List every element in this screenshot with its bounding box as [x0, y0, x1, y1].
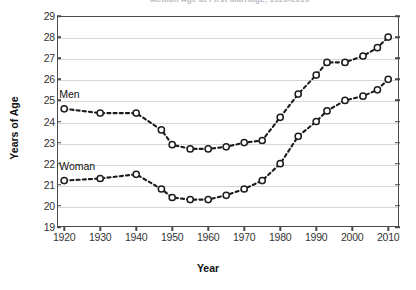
- y-tick-mark: [395, 57, 400, 59]
- y-tick-mark: [395, 163, 400, 165]
- y-tick-label: 22: [29, 158, 55, 170]
- y-tick-mark: [57, 100, 61, 102]
- y-tick-mark: [57, 205, 61, 207]
- data-point-men: [241, 140, 247, 146]
- data-point-woman: [277, 161, 283, 167]
- y-tick-label: 23: [29, 137, 55, 149]
- data-point-woman: [241, 186, 247, 192]
- data-point-men: [295, 91, 301, 97]
- x-tick-mark: [171, 227, 172, 231]
- chart-title-text: Median Age at First Marriage, 1920-2010: [150, 0, 416, 4]
- y-tick-mark: [395, 121, 400, 123]
- data-point-woman: [223, 192, 229, 198]
- y-tick-mark: [395, 184, 400, 186]
- x-tick-label: 1980: [269, 231, 292, 243]
- y-tick-mark: [57, 226, 61, 228]
- data-point-woman: [259, 178, 265, 184]
- y-tick-mark: [57, 121, 61, 123]
- data-point-men: [259, 137, 265, 143]
- y-tick-mark: [57, 142, 61, 144]
- series-line-men: [64, 37, 388, 149]
- data-point-woman: [374, 87, 380, 93]
- data-point-men: [324, 59, 330, 65]
- x-tick-label: 1930: [89, 231, 112, 243]
- data-point-woman: [97, 175, 103, 181]
- data-point-men: [61, 106, 67, 112]
- x-tick-label: 2010: [377, 231, 400, 243]
- data-point-men: [133, 110, 139, 116]
- x-tick-label: 1950: [161, 231, 184, 243]
- data-point-woman: [295, 133, 301, 139]
- y-tick-label: 24: [29, 116, 55, 128]
- data-point-woman: [133, 171, 139, 177]
- x-tick-label: 1960: [197, 231, 220, 243]
- y-tick-mark: [57, 184, 61, 186]
- x-tick-label: 1940: [125, 231, 148, 243]
- data-point-woman: [158, 186, 164, 192]
- y-tick-mark: [395, 36, 400, 38]
- data-point-men: [223, 144, 229, 150]
- y-tick-label: 21: [29, 179, 55, 191]
- data-point-men: [385, 34, 391, 40]
- data-point-woman: [342, 97, 348, 103]
- y-tick-mark: [57, 79, 61, 81]
- data-point-woman: [187, 197, 193, 203]
- data-point-men: [187, 146, 193, 152]
- x-tick-label: 1920: [53, 231, 76, 243]
- x-tick-mark: [63, 227, 64, 231]
- y-tick-label: 19: [29, 221, 55, 233]
- y-tick-label: 28: [29, 31, 55, 43]
- chart-title-cropped: Median Age at First Marriage, 1920-2010: [150, 0, 416, 7]
- x-tick-mark: [351, 227, 352, 231]
- y-tick-mark: [395, 142, 400, 144]
- series-layer: [57, 16, 399, 227]
- data-point-woman: [205, 197, 211, 203]
- data-point-woman: [360, 93, 366, 99]
- y-tick-label: 20: [29, 200, 55, 212]
- data-point-men: [205, 146, 211, 152]
- series-line-woman: [64, 79, 388, 199]
- data-point-men: [97, 110, 103, 116]
- y-tick-label: 26: [29, 73, 55, 85]
- y-axis-title: Years of Age: [8, 83, 20, 173]
- x-tick-mark: [99, 227, 100, 231]
- data-point-men: [342, 59, 348, 65]
- data-point-woman: [385, 76, 391, 82]
- data-point-men: [313, 72, 319, 78]
- y-tick-mark: [395, 205, 400, 207]
- y-tick-mark: [57, 15, 61, 17]
- y-tick-mark: [395, 100, 400, 102]
- x-tick-mark: [315, 227, 316, 231]
- data-point-woman: [61, 178, 67, 184]
- x-tick-mark: [387, 227, 388, 231]
- series-label-woman: Woman: [59, 160, 95, 172]
- data-point-men: [277, 114, 283, 120]
- x-tick-mark: [243, 227, 244, 231]
- y-tick-mark: [57, 57, 61, 59]
- x-tick-label: 2000: [341, 231, 364, 243]
- y-tick-label: 29: [29, 10, 55, 22]
- x-tick-label: 1970: [233, 231, 256, 243]
- y-tick-mark: [57, 163, 61, 165]
- data-point-woman: [313, 118, 319, 124]
- x-tick-mark: [135, 227, 136, 231]
- data-point-men: [374, 45, 380, 51]
- data-point-men: [360, 53, 366, 59]
- data-point-men: [169, 142, 175, 148]
- data-point-men: [158, 127, 164, 133]
- y-tick-label: 27: [29, 52, 55, 64]
- y-tick-mark: [395, 79, 400, 81]
- x-axis-title: Year: [0, 262, 416, 274]
- data-point-woman: [324, 108, 330, 114]
- y-tick-mark: [57, 36, 61, 38]
- chart-figure: Median Age at First Marriage, 1920-2010 …: [0, 0, 416, 290]
- y-tick-mark: [395, 15, 400, 17]
- data-point-woman: [169, 194, 175, 200]
- y-axis: 1920212223242526272829: [25, 16, 55, 227]
- series-label-men: Men: [59, 88, 79, 100]
- x-tick-label: 1990: [305, 231, 328, 243]
- x-tick-mark: [207, 227, 208, 231]
- y-tick-label: 25: [29, 94, 55, 106]
- y-tick-mark: [395, 226, 400, 228]
- x-tick-mark: [279, 227, 280, 231]
